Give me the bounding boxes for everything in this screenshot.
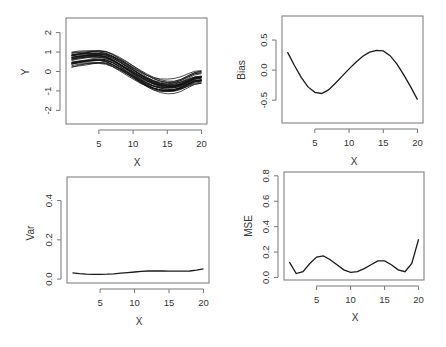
panel-mse: 51015200.00.20.40.60.8 X MSE (243, 169, 424, 323)
y-tick-label: 0.5 (258, 33, 269, 46)
x-tick-label: 15 (379, 294, 390, 305)
axes: 51015200.00.20.40.60.8 (260, 169, 424, 305)
y-tick-label: 1 (42, 49, 53, 54)
x-tick-label: 5 (97, 297, 102, 308)
y-tick-label: 2 (42, 30, 53, 35)
y-tick-label: 0.8 (260, 169, 271, 182)
y-axis-label: Y (20, 68, 31, 75)
y-tick-label: 0.6 (260, 195, 271, 208)
y-axis-label: MSE (243, 215, 254, 237)
x-tick-label: 15 (162, 138, 173, 149)
x-tick-label: 20 (413, 294, 424, 305)
x-axis-label: X (136, 316, 143, 327)
x-tick-label: 5 (314, 294, 319, 305)
x-tick-label: 10 (128, 138, 139, 149)
x-tick-label: 5 (96, 138, 101, 149)
bias-line (288, 50, 418, 99)
axes: 51015200.00.20.4 (43, 194, 209, 308)
x-axis-label: X (352, 312, 359, 323)
plot-box (284, 172, 424, 280)
y-tick-label: 0.0 (258, 63, 269, 76)
x-tick-label: 20 (196, 138, 207, 149)
y-tick-label: 0.2 (43, 233, 54, 246)
x-tick-label: 15 (378, 137, 389, 148)
simulated-curves (72, 51, 202, 94)
y-tick-label: -1 (42, 87, 53, 95)
y-axis-label: Bias (236, 60, 247, 79)
y-tick-label: 0.2 (260, 245, 271, 258)
variance-line (73, 269, 204, 275)
axes: 5101520-0.50.00.5 (258, 33, 423, 148)
x-tick-label: 10 (129, 297, 140, 308)
y-tick-label: 0.0 (43, 272, 54, 285)
x-axis-label: X (134, 157, 141, 168)
y-tick-label: -0.5 (258, 92, 269, 108)
y-axis-label: Var (25, 225, 36, 240)
x-tick-label: 10 (345, 294, 356, 305)
x-tick-label: 15 (164, 297, 175, 308)
x-tick-label: 20 (412, 137, 423, 148)
x-tick-label: 20 (198, 297, 209, 308)
panel-bias: 5101520-0.50.00.5 X Bias (236, 16, 423, 167)
y-tick-label: -2 (42, 106, 53, 114)
figure: 5101520-2-1012 X Y 5101520-0.50.00.5 X B… (0, 0, 446, 347)
y-tick-label: 0.4 (43, 194, 54, 207)
plot-box (282, 16, 423, 123)
mse-line (289, 239, 418, 273)
panel-y: 5101520-2-1012 X Y (20, 18, 207, 168)
plot-box (67, 177, 209, 283)
x-tick-label: 5 (312, 137, 317, 148)
axes: 5101520-2-1012 (42, 30, 207, 149)
y-tick-label: 0.0 (260, 271, 271, 284)
x-axis-label: X (351, 156, 358, 167)
y-tick-label: 0 (42, 69, 53, 74)
panel-var: 51015200.00.20.4 X Var (25, 177, 209, 327)
x-tick-label: 10 (344, 137, 355, 148)
y-tick-label: 0.4 (260, 220, 271, 233)
